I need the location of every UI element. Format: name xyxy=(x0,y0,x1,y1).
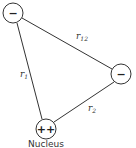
electron-1: − xyxy=(3,3,23,23)
electron-2: − xyxy=(111,64,131,84)
svg-text:−: − xyxy=(116,68,125,81)
label-r1: r1 xyxy=(20,69,28,80)
label-r12: r12 xyxy=(76,31,88,42)
edge-r2 xyxy=(54,82,114,122)
svg-text:−: − xyxy=(8,7,17,20)
nucleus-caption: Nucleus xyxy=(28,139,64,148)
diagram-svg: r12 r1 r2 − − ++ Nucleus xyxy=(0,0,136,148)
diagram-canvas: r12 r1 r2 − − ++ Nucleus xyxy=(0,0,136,148)
edge-r12 xyxy=(22,18,112,69)
label-r2: r2 xyxy=(88,103,96,114)
nucleus: ++ xyxy=(36,119,56,139)
svg-text:++: ++ xyxy=(37,123,55,136)
